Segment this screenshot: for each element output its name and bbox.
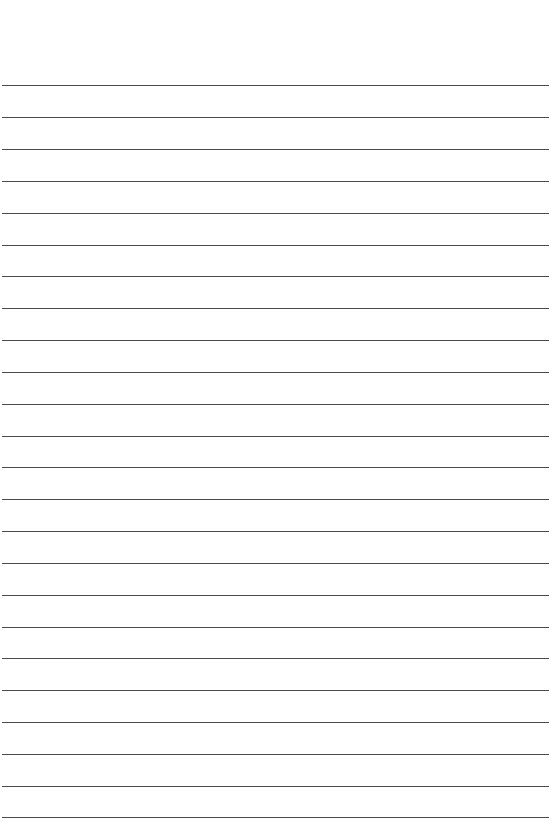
writing-line-slot[interactable] xyxy=(0,755,553,786)
writing-line-slot[interactable] xyxy=(0,405,553,436)
rule-line xyxy=(2,627,549,628)
rule-line xyxy=(2,117,549,118)
rule-line xyxy=(2,149,549,150)
rule-line xyxy=(2,499,549,500)
writing-line-slot[interactable] xyxy=(0,787,553,817)
writing-line-slot[interactable] xyxy=(0,246,553,276)
writing-line-slot[interactable] xyxy=(0,86,553,117)
writing-line-slot[interactable] xyxy=(0,723,553,754)
writing-line-slot[interactable] xyxy=(0,341,553,372)
rule-line xyxy=(2,372,549,373)
rule-line xyxy=(2,436,549,437)
writing-line-slot[interactable] xyxy=(0,214,553,245)
rule-line xyxy=(2,213,549,214)
rule-line xyxy=(2,340,549,341)
writing-line-slot[interactable] xyxy=(0,468,553,499)
rule-line xyxy=(2,786,549,787)
rule-line xyxy=(2,276,549,277)
rule-line xyxy=(2,722,549,723)
rule-line xyxy=(2,754,549,755)
writing-line-slot[interactable] xyxy=(0,182,553,213)
rule-line xyxy=(2,595,549,596)
rule-line xyxy=(2,531,549,532)
rule-line xyxy=(2,658,549,659)
writing-line-slot[interactable] xyxy=(0,500,553,531)
writing-line-slot[interactable] xyxy=(0,309,553,340)
writing-line-slot[interactable] xyxy=(0,532,553,563)
writing-line-slot[interactable] xyxy=(0,150,553,181)
rule-line xyxy=(2,467,549,468)
writing-line-slot[interactable] xyxy=(0,659,553,690)
writing-area[interactable] xyxy=(0,0,553,836)
rule-line xyxy=(2,308,549,309)
rule-line xyxy=(2,563,549,564)
writing-line-slot[interactable] xyxy=(0,564,553,595)
rule-line xyxy=(2,245,549,246)
lined-paper-page xyxy=(0,0,553,836)
rule-line xyxy=(2,690,549,691)
rule-line xyxy=(2,817,549,818)
rule-line xyxy=(2,181,549,182)
writing-line-slot[interactable] xyxy=(0,118,553,149)
writing-line-slot[interactable] xyxy=(0,437,553,467)
writing-line-slot[interactable] xyxy=(0,277,553,308)
rule-line xyxy=(2,85,549,86)
writing-line-slot[interactable] xyxy=(0,691,553,722)
writing-line-slot[interactable] xyxy=(0,373,553,404)
writing-line-slot[interactable] xyxy=(0,596,553,627)
rule-line xyxy=(2,404,549,405)
writing-line-slot[interactable] xyxy=(0,628,553,658)
writing-line-slot[interactable] xyxy=(0,54,553,85)
